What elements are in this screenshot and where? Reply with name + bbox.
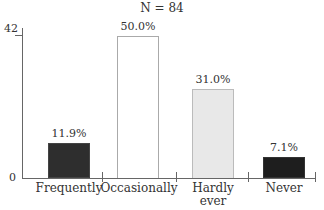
bar-value-label: 11.9% <box>39 128 99 140</box>
category-label-line: Frequently <box>31 182 107 195</box>
bar-occasionally <box>117 36 159 178</box>
bar-value-label: 7.1% <box>254 142 314 154</box>
chart-title: N = 84 <box>0 0 324 16</box>
category-label-line: Never <box>246 182 322 195</box>
bar-never <box>263 157 305 178</box>
bar-value-label: 31.0% <box>183 74 243 86</box>
category-label: Hardly ever <box>175 182 251 208</box>
category-label: Frequently <box>31 182 107 195</box>
category-label-line: ever <box>175 195 251 208</box>
x-tick-mark <box>248 172 249 182</box>
bar-frequently <box>48 143 90 178</box>
x-axis <box>22 178 316 179</box>
bar-hardly-ever <box>192 89 234 178</box>
category-label: Never <box>246 182 322 195</box>
y-tick-max: 42 <box>2 23 18 35</box>
category-label: Occasionally <box>100 182 178 195</box>
category-label-line: Occasionally <box>100 182 178 195</box>
x-tick-mark <box>315 172 316 182</box>
y-axis <box>22 28 23 179</box>
y-tick-min: 0 <box>0 172 16 184</box>
bar-value-label: 50.0% <box>108 21 168 33</box>
